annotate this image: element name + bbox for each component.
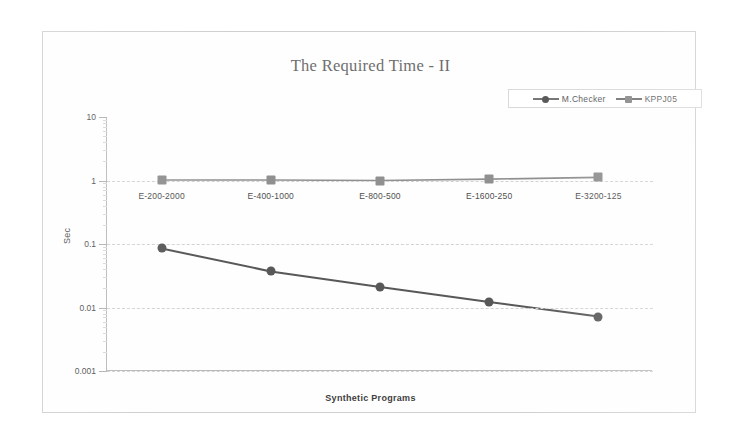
y-axis-minor-tick — [103, 269, 107, 270]
y-axis-minor-tick — [103, 195, 107, 196]
y-axis-tick-label: 1 — [91, 176, 96, 186]
chart-legend: M.Checker KPPJ05 — [508, 89, 702, 108]
y-axis-minor-tick — [103, 322, 107, 323]
gridline — [107, 308, 653, 309]
y-axis-minor-tick — [103, 142, 107, 143]
y-axis-minor-tick — [103, 254, 107, 255]
y-axis-minor-tick — [103, 161, 107, 162]
data-point — [594, 312, 603, 321]
plot-area: 1010.10.010.001E-200-2000E-400-1000E-800… — [106, 117, 652, 371]
y-axis-minor-tick — [103, 250, 107, 251]
y-axis-tick — [99, 117, 107, 118]
y-axis-minor-tick — [103, 327, 107, 328]
data-point — [266, 175, 275, 184]
data-point — [157, 175, 166, 184]
data-point — [376, 176, 385, 185]
data-point — [485, 175, 494, 184]
data-point — [157, 244, 166, 253]
legend-marker-square-icon — [616, 94, 642, 103]
y-axis-minor-tick — [103, 247, 107, 248]
y-axis-minor-tick — [103, 225, 107, 226]
legend-marker-circle-icon — [533, 94, 559, 103]
y-axis-minor-tick — [103, 333, 107, 334]
y-axis-minor-tick — [103, 200, 107, 201]
legend-entry-kppj05: KPPJ05 — [616, 94, 678, 104]
data-point — [266, 267, 275, 276]
y-axis-minor-tick — [103, 314, 107, 315]
x-axis-category-label: E-3200-125 — [575, 191, 621, 201]
y-axis-minor-tick — [103, 352, 107, 353]
y-axis-tick — [99, 181, 107, 182]
y-axis-minor-tick — [103, 183, 107, 184]
y-axis-minor-tick — [103, 127, 107, 128]
y-axis-title: Sec — [62, 228, 72, 244]
y-axis-tick-label: 0.001 — [75, 366, 96, 376]
x-axis-category-label: E-400-1000 — [248, 191, 294, 201]
chart-title: The Required Time - II — [0, 56, 741, 76]
y-axis-minor-tick — [103, 214, 107, 215]
data-point — [594, 173, 603, 182]
y-axis-tick — [99, 244, 107, 245]
x-axis-category-label: E-1600-250 — [466, 191, 512, 201]
y-axis-tick-label: 10 — [87, 112, 96, 122]
y-axis-minor-tick — [103, 120, 107, 121]
y-axis-minor-tick — [103, 341, 107, 342]
y-axis-minor-tick — [103, 187, 107, 188]
x-axis-title: Synthetic Programs — [0, 393, 741, 403]
y-axis-minor-tick — [103, 190, 107, 191]
gridline — [107, 244, 653, 245]
legend-label-kppj05: KPPJ05 — [645, 94, 678, 104]
y-axis-tick-label: 0.01 — [79, 303, 96, 313]
x-axis-category-label: E-200-2000 — [138, 191, 184, 201]
y-axis-tick-label: 0.1 — [84, 239, 96, 249]
y-axis-minor-tick — [103, 277, 107, 278]
data-point — [485, 298, 494, 307]
y-axis-minor-tick — [103, 136, 107, 137]
y-axis-tick — [99, 308, 107, 309]
legend-entry-m-checker: M.Checker — [533, 94, 606, 104]
x-axis-category-label: E-800-500 — [359, 191, 401, 201]
y-axis-minor-tick — [103, 258, 107, 259]
y-axis-minor-tick — [103, 317, 107, 318]
data-point — [376, 283, 385, 292]
chart-screenshot: The Required Time - II M.Checker KPPJ05 … — [0, 0, 741, 446]
gridline — [107, 371, 653, 372]
y-axis-minor-tick — [103, 150, 107, 151]
y-axis-tick — [99, 371, 107, 372]
y-axis-minor-tick — [103, 288, 107, 289]
y-axis-minor-tick — [103, 123, 107, 124]
y-axis-minor-tick — [103, 206, 107, 207]
legend-label-m-checker: M.Checker — [562, 94, 606, 104]
y-axis-minor-tick — [103, 131, 107, 132]
y-axis-minor-tick — [103, 263, 107, 264]
y-axis-minor-tick — [103, 310, 107, 311]
